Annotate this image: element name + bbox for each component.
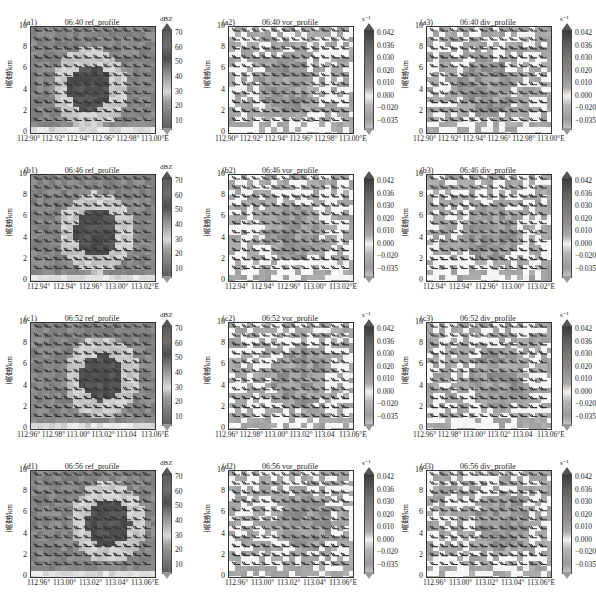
colorbar-extend-up-icon bbox=[364, 23, 374, 30]
colorbar-unit: s⁻¹ bbox=[560, 15, 569, 23]
y-tick-label: 6 bbox=[13, 211, 27, 220]
panel-c1: (c1)06:52 ref_profile高度/km1086420112.96°… bbox=[0, 308, 196, 458]
colorbar-tick-label: 0.036 bbox=[575, 485, 592, 494]
colorbar-tick-label: 0.030 bbox=[575, 497, 592, 506]
colorbar bbox=[162, 326, 172, 426]
colorbar-unit: dBZ bbox=[160, 459, 172, 467]
x-tick-label: 112.92° bbox=[42, 134, 65, 143]
y-tick-label: 10 bbox=[211, 21, 225, 30]
wind-barbs-overlay bbox=[427, 175, 551, 281]
colorbar-tick-label: 0.042 bbox=[377, 472, 394, 481]
y-tick-label: 2 bbox=[13, 106, 27, 115]
x-tick-label: 112.90° bbox=[17, 134, 40, 143]
colorbar-tick-label: 50 bbox=[175, 205, 183, 214]
wind-barbs-overlay bbox=[229, 471, 353, 577]
panel-d3: (d3)06:56 div_profile高度/km1086420112.96°… bbox=[396, 456, 592, 606]
colorbar-tick-label: 40 bbox=[175, 368, 183, 377]
y-tick-label: 8 bbox=[211, 338, 225, 347]
x-tick-label: 112.96° bbox=[225, 578, 248, 587]
x-tick-label: 113.00° bbox=[449, 578, 472, 587]
panel-a1: (a1)06:40 ref_profile高度/km1086420112.90°… bbox=[0, 12, 196, 162]
x-tick-label: 112.98° bbox=[314, 134, 337, 143]
colorbar-tick-label: 0.010 bbox=[575, 374, 592, 383]
x-tick-label: 113.00° bbox=[105, 282, 128, 291]
colorbar-tick-label: 0.020 bbox=[377, 362, 394, 371]
x-tick-label: 113.04 bbox=[512, 430, 532, 439]
y-tick-label: 8 bbox=[13, 42, 27, 51]
panel-b1: (b1)06:46 ref_profile高度/km1086420112.94°… bbox=[0, 160, 196, 310]
colorbar-extend-down-icon bbox=[162, 276, 172, 283]
colorbar-extend-down-icon bbox=[364, 276, 374, 283]
x-tick-label: 112.96° bbox=[79, 282, 102, 291]
wind-barbs-overlay bbox=[427, 323, 551, 429]
colorbar-tick-label: −0.035 bbox=[377, 412, 398, 421]
y-tick-label: 0 bbox=[409, 571, 423, 580]
y-tick-label: 0 bbox=[13, 275, 27, 284]
y-tick-label: 2 bbox=[13, 254, 27, 263]
colorbar-tick-label: 0.042 bbox=[575, 324, 592, 333]
colorbar-tick-label: 0.020 bbox=[377, 66, 394, 75]
x-tick-label: 113.02° bbox=[289, 430, 312, 439]
colorbar-tick-label: 10 bbox=[175, 560, 183, 569]
y-tick-label: 6 bbox=[409, 507, 423, 516]
colorbar bbox=[364, 178, 374, 278]
y-tick-label: 10 bbox=[13, 465, 27, 474]
colorbar-tick-label: 0.020 bbox=[575, 510, 592, 519]
y-tick-label: 8 bbox=[13, 338, 27, 347]
y-tick-label: 2 bbox=[409, 254, 423, 263]
panel-b3: (b3)06:46 div_profile高度/km1086420112.94°… bbox=[396, 160, 592, 310]
colorbar-tick-label: 0.042 bbox=[377, 176, 394, 185]
x-tick-label: 112.96° bbox=[277, 282, 300, 291]
colorbar-tick-label: 0.042 bbox=[575, 472, 592, 481]
panel-a3: (a3)06:40 div_profile高度/km1086420112.90°… bbox=[396, 12, 592, 162]
colorbar-extend-down-icon bbox=[364, 128, 374, 135]
panel-b2: (b2)06:46 vor_profile高度/km1086420112.94°… bbox=[198, 160, 394, 310]
colorbar-tick-label: 0.036 bbox=[575, 41, 592, 50]
y-tick-label: 4 bbox=[409, 381, 423, 390]
x-tick-label: 113.04° bbox=[303, 578, 326, 587]
colorbar-tick-label: −0.035 bbox=[377, 116, 398, 125]
colorbar bbox=[162, 474, 172, 574]
y-tick-label: 8 bbox=[409, 190, 423, 199]
colorbar-tick-label: 10 bbox=[175, 264, 183, 273]
y-tick-label: 4 bbox=[211, 233, 225, 242]
x-tick-label: 113.02°E bbox=[527, 282, 555, 291]
colorbar-unit: s⁻¹ bbox=[560, 459, 569, 467]
x-tick-label: 113.06°E bbox=[339, 430, 367, 439]
colorbar-tick-label: 0.030 bbox=[377, 53, 394, 62]
colorbar-tick-label: −0.035 bbox=[377, 560, 398, 569]
colorbar-extend-up-icon bbox=[162, 171, 172, 178]
x-tick-label: 113.04 bbox=[116, 430, 136, 439]
colorbar-extend-down-icon bbox=[162, 572, 172, 579]
colorbar-tick-label: 0.030 bbox=[377, 349, 394, 358]
x-tick-label: 112.96° bbox=[91, 134, 114, 143]
x-tick-label: 113.00° bbox=[251, 578, 274, 587]
y-tick-label: 0 bbox=[13, 571, 27, 580]
x-tick-label: 113.02° bbox=[277, 578, 300, 587]
colorbar-unit: dBZ bbox=[160, 15, 172, 23]
colorbar-tick-label: −0.035 bbox=[575, 116, 596, 125]
colorbar-tick-label: 0.000 bbox=[377, 239, 394, 248]
colorbar-tick-label: 0.030 bbox=[377, 201, 394, 210]
panel-c3: (c3)06:52 div_profile高度/km1086420112.96°… bbox=[396, 308, 592, 458]
colorbar-tick-label: 0.010 bbox=[575, 226, 592, 235]
x-tick-label: 113.06°E bbox=[329, 578, 357, 587]
colorbar-tick-label: 0.036 bbox=[575, 337, 592, 346]
colorbar-tick-label: 40 bbox=[175, 220, 183, 229]
x-tick-label: 113.06°E bbox=[537, 430, 565, 439]
colorbar-extend-up-icon bbox=[562, 171, 572, 178]
x-tick-label: 113.00°E bbox=[339, 134, 367, 143]
vorticity-divergence-heatmap bbox=[426, 470, 552, 578]
y-tick-label: 10 bbox=[13, 169, 27, 178]
colorbar-tick-label: 40 bbox=[175, 516, 183, 525]
colorbar-unit: s⁻¹ bbox=[560, 311, 569, 319]
y-tick-label: 2 bbox=[409, 402, 423, 411]
colorbar-tick-label: 50 bbox=[175, 353, 183, 362]
y-tick-label: 6 bbox=[211, 359, 225, 368]
x-tick-label: 113.00° bbox=[67, 430, 90, 439]
colorbar-unit: s⁻¹ bbox=[362, 15, 371, 23]
x-tick-label: 113.00° bbox=[265, 430, 288, 439]
x-tick-label: 112.98° bbox=[240, 430, 263, 439]
colorbar-tick-label: 0.036 bbox=[575, 189, 592, 198]
wind-barbs-overlay bbox=[31, 323, 155, 429]
